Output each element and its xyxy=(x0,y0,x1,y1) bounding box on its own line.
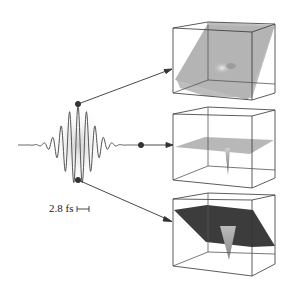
diagram-svg xyxy=(0,0,291,291)
point-peak-dot xyxy=(75,101,80,106)
point-trough-dot xyxy=(75,177,80,182)
figure: 2.8 fs xyxy=(0,0,291,291)
middle-cube xyxy=(173,107,275,188)
top-cube xyxy=(173,22,275,100)
bottom-cube xyxy=(173,193,275,276)
point-tail-dot xyxy=(138,142,143,147)
scale-label: 2.8 fs xyxy=(49,202,73,214)
scale-bar xyxy=(77,206,89,212)
